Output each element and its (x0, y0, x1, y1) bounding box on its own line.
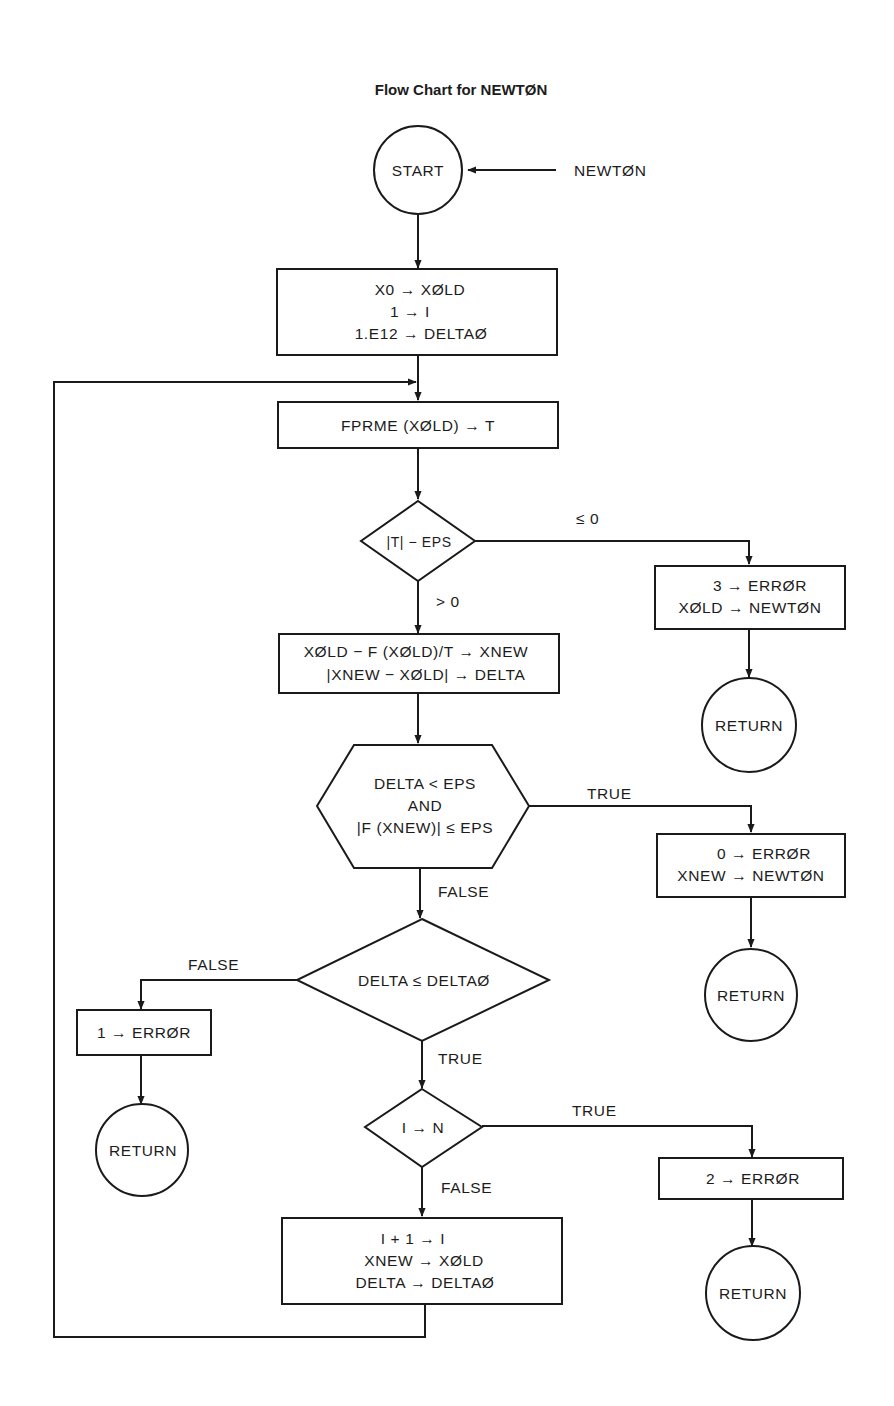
init-line-2: 1 → I (390, 303, 430, 320)
chart-title: Flow Chart for NEWTØN (375, 81, 548, 98)
newton-step-node: XØLD − F (XØLD)/T → XNEW |XNEW − XØLD| →… (279, 634, 559, 693)
converge-line-2: AND (408, 797, 443, 814)
label-iter-true: TRUE (572, 1102, 617, 1119)
err0-box (657, 834, 845, 897)
err1-line-1: 1 → ERRØR (97, 1024, 191, 1041)
label-gt0: > 0 (436, 593, 460, 610)
check-t-node: |T| − EPS (361, 501, 475, 581)
err1-node: 1 → ERRØR (77, 1010, 211, 1055)
return4-node: RETURN (706, 1246, 800, 1340)
check-t-label: |T| − EPS (386, 534, 451, 550)
converge-line-1: DELTA < EPS (374, 775, 476, 792)
delta-check-label: DELTA ≤ DELTAØ (358, 972, 490, 989)
entry-label: NEWTØN (574, 162, 646, 179)
newton-step-line-1: XØLD − F (XØLD)/T → XNEW (304, 643, 529, 660)
return2-node: RETURN (705, 949, 797, 1041)
label-delta-true: TRUE (438, 1050, 483, 1067)
err0-line-2: XNEW → NEWTØN (677, 867, 824, 884)
err3-node: 3 → ERRØR XØLD → NEWTØN (655, 566, 845, 629)
label-iter-false: FALSE (441, 1179, 492, 1196)
start-label: START (392, 162, 444, 179)
fprme-line-1: FPRME (XØLD) → T (341, 417, 495, 434)
return1-node: RETURN (702, 678, 796, 772)
label-converge-false: FALSE (438, 883, 489, 900)
return2-label: RETURN (717, 987, 785, 1004)
return3-label: RETURN (109, 1142, 177, 1159)
update-line-3: DELTA → DELTAØ (355, 1274, 494, 1291)
return4-label: RETURN (719, 1285, 787, 1302)
err3-line-2: XØLD → NEWTØN (678, 599, 821, 616)
delta-check-node: DELTA ≤ DELTAØ (297, 919, 549, 1041)
arrow-converge-err0 (529, 806, 751, 832)
err2-node: 2 → ERRØR (659, 1158, 843, 1199)
update-node: I + 1 → I XNEW → XØLD DELTA → DELTAØ (282, 1218, 562, 1304)
err0-node: 0 → ERRØR XNEW → NEWTØN (657, 834, 845, 897)
update-line-1: I + 1 → I (381, 1230, 445, 1247)
label-delta-false: FALSE (188, 956, 239, 973)
init-node: X0 → XØLD 1 → I 1.E12 → DELTAØ (277, 269, 557, 355)
err0-line-1: 0 → ERRØR (717, 845, 811, 862)
return1-label: RETURN (715, 717, 783, 734)
converge-node: DELTA < EPS AND |F (XNEW)| ≤ EPS (317, 745, 529, 868)
label-converge-true: TRUE (587, 785, 632, 802)
update-line-2: XNEW → XØLD (364, 1252, 483, 1269)
init-line-1: X0 → XØLD (375, 281, 466, 298)
newton-step-line-2: |XNEW − XØLD| → DELTA (327, 666, 526, 683)
label-le0: ≤ 0 (576, 510, 599, 527)
arrow-iter-err2 (482, 1126, 752, 1157)
iter-check-label: I → N (402, 1119, 445, 1136)
iter-check-node: I → N (365, 1089, 482, 1167)
err3-box (655, 566, 845, 629)
arrow-check-err3 (475, 541, 749, 564)
arrow-delta-err1 (141, 980, 297, 1009)
return3-node: RETURN (96, 1104, 188, 1196)
start-node: START (374, 126, 462, 214)
fprme-node: FPRME (XØLD) → T (278, 402, 558, 448)
flowchart: Flow Chart for NEWTØN (0, 0, 894, 1406)
converge-line-3: |F (XNEW)| ≤ EPS (357, 819, 493, 836)
err3-line-1: 3 → ERRØR (713, 577, 807, 594)
err2-line-1: 2 → ERRØR (706, 1170, 800, 1187)
init-line-3: 1.E12 → DELTAØ (355, 325, 488, 342)
